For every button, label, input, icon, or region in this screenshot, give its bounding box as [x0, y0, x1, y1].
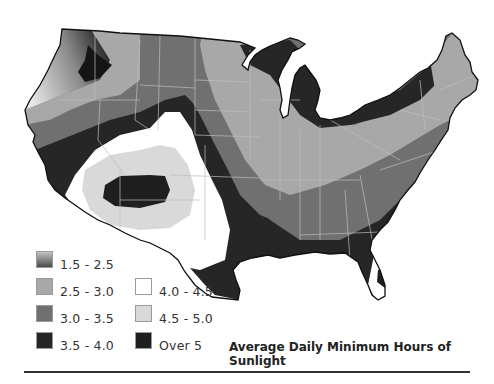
legend-label: 3.5 - 4.0	[60, 338, 114, 353]
legend-swatch	[36, 332, 53, 349]
map-title: Average Daily Minimum Hours of Sunlight	[229, 340, 494, 368]
legend-item-4: 3.5 - 4.0	[36, 335, 114, 350]
legend-item-3: 3.0 - 3.5	[36, 308, 114, 323]
legend-item-6: 4.5 - 5.0	[135, 308, 213, 323]
legend-label: 1.5 - 2.5	[60, 257, 114, 272]
legend-swatch	[36, 278, 53, 295]
us-sunlight-map	[0, 0, 494, 384]
legend-swatch	[135, 305, 152, 322]
legend-item-7: Over 5	[135, 335, 202, 350]
legend-swatch	[36, 251, 53, 268]
legend-swatch	[135, 278, 152, 295]
legend-label: 2.5 - 3.0	[60, 284, 114, 299]
legend-item-2: 2.5 - 3.0	[36, 281, 114, 296]
divider	[24, 371, 470, 373]
legend-swatch	[36, 305, 53, 322]
legend-label: 3.0 - 3.5	[60, 311, 114, 326]
legend-swatch	[135, 332, 152, 349]
legend-label: 4.5 - 5.0	[159, 311, 213, 326]
legend-item-5: 4.0 - 4.5	[135, 281, 213, 296]
legend-label: 4.0 - 4.5	[159, 284, 213, 299]
legend-label: Over 5	[159, 338, 202, 353]
legend-item-1: 1.5 - 2.5	[36, 254, 114, 269]
